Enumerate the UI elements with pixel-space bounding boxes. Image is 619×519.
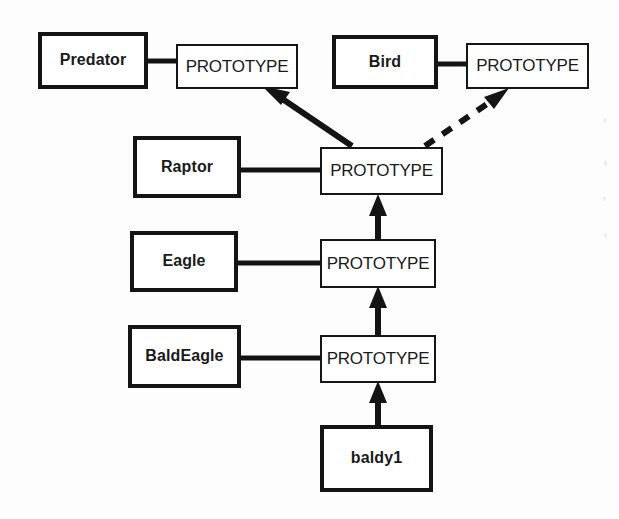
edge-baldeagleproto-to-eagleproto <box>369 286 387 336</box>
node-baldy1[interactable]: baldy1 <box>320 425 433 492</box>
node-predator-label: Predator <box>58 52 129 69</box>
edge-raptorproto-to-birdproto <box>425 88 509 146</box>
node-bird-prototype-label: PROTOTYPE <box>474 57 581 75</box>
scan-artifact <box>604 233 607 238</box>
node-baldeagle-prototype-label: PROTOTYPE <box>325 350 432 368</box>
node-baldeagle-label: BaldEagle <box>143 348 225 365</box>
node-bird[interactable]: Bird <box>332 35 438 89</box>
scan-artifact <box>604 160 607 166</box>
prototype-chain-diagram: Predator PROTOTYPE Bird PROTOTYPE Raptor… <box>0 0 619 519</box>
node-eagle-label: Eagle <box>160 253 207 270</box>
node-eagle-prototype-label: PROTOTYPE <box>325 255 432 273</box>
node-baldy1-label: baldy1 <box>349 450 404 467</box>
node-raptor-label: Raptor <box>159 159 215 176</box>
node-baldeagle[interactable]: BaldEagle <box>128 325 241 388</box>
node-raptor-prototype[interactable]: PROTOTYPE <box>320 147 443 195</box>
scan-artifact <box>603 196 606 201</box>
node-predator-prototype-label: PROTOTYPE <box>184 58 291 76</box>
node-predator-prototype[interactable]: PROTOTYPE <box>176 44 298 89</box>
node-eagle[interactable]: Eagle <box>130 231 238 292</box>
node-eagle-prototype[interactable]: PROTOTYPE <box>320 239 436 288</box>
node-raptor[interactable]: Raptor <box>133 136 241 198</box>
node-baldeagle-prototype[interactable]: PROTOTYPE <box>320 335 436 383</box>
node-bird-label: Bird <box>367 54 403 71</box>
node-bird-prototype[interactable]: PROTOTYPE <box>466 43 589 89</box>
edge-baldy1-to-baldeagleproto <box>369 381 387 426</box>
edge-raptorproto-to-predatorproto <box>262 86 352 146</box>
scan-artifact <box>603 118 606 123</box>
node-raptor-prototype-label: PROTOTYPE <box>328 162 435 180</box>
edge-eagleproto-to-raptorproto <box>369 194 387 240</box>
node-predator[interactable]: Predator <box>38 32 148 89</box>
